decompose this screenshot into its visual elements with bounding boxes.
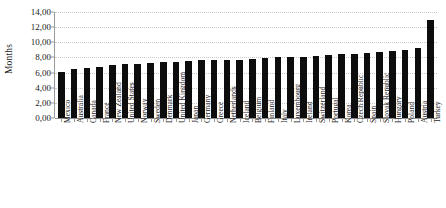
- y-axis-tick-label: 12,00: [31, 23, 51, 32]
- x-axis-category-label: Slovak Republic: [383, 73, 391, 123]
- x-axis-tick: [227, 118, 228, 122]
- x-axis-category-label: Sweden: [154, 99, 162, 123]
- x-axis-category-label: New Zealand: [115, 82, 123, 123]
- y-axis-tick-label: 10,00: [31, 38, 51, 47]
- x-axis-tick: [265, 118, 266, 122]
- x-axis-category-label: Finland: [268, 100, 276, 123]
- x-axis-category-label: Greece: [217, 102, 225, 124]
- x-axis-category-label: Austria: [421, 101, 429, 123]
- x-axis-category-label: Iceland: [243, 101, 251, 123]
- x-axis-tick: [240, 118, 241, 122]
- x-axis-category-label: Spain: [370, 106, 378, 123]
- y-axis-tick: [49, 42, 54, 43]
- x-axis-category-label: Poland: [408, 102, 416, 123]
- x-axis-tick: [405, 118, 406, 122]
- x-axis-tick: [74, 118, 75, 122]
- x-axis-tick: [329, 118, 330, 122]
- y-axis-title-label: Months: [4, 44, 14, 74]
- y-axis-tick: [49, 12, 54, 13]
- x-axis-tick: [125, 118, 126, 122]
- x-axis-category-label: Luxembourg: [294, 84, 302, 123]
- x-axis-tick: [100, 118, 101, 122]
- x-axis-category-label: Czech Republic: [357, 75, 365, 123]
- x-axis-tick: [151, 118, 152, 122]
- x-axis-category-label: Ireland: [306, 101, 314, 123]
- x-axis-category-label: Turkey: [434, 101, 442, 123]
- x-axis-tick: [214, 118, 215, 122]
- x-axis-category-label: United States: [128, 82, 136, 123]
- x-axis-category-label: Hungary: [395, 96, 403, 123]
- x-axis-tick: [380, 118, 381, 122]
- y-axis-tick: [49, 72, 54, 73]
- x-axis-tick: [176, 118, 177, 122]
- x-axis-tick: [189, 118, 190, 122]
- x-axis-category-label: Netherlands: [230, 86, 238, 123]
- x-axis-category-label: Mexico: [64, 100, 72, 123]
- y-axis-tick-label: 14,00: [31, 8, 51, 17]
- y-axis-tick: [49, 27, 54, 28]
- x-axis-category-label: Korea: [345, 104, 353, 123]
- x-axis-tick: [418, 118, 419, 122]
- x-axis-tick: [87, 118, 88, 122]
- y-axis-tick: [49, 87, 54, 88]
- x-axis-category-label: Switzerland: [319, 87, 327, 123]
- y-axis-tick: [49, 118, 54, 119]
- y-axis-tick: [49, 57, 54, 58]
- x-axis-tick: [342, 118, 343, 122]
- x-axis-category-label: Italy: [281, 109, 289, 123]
- x-axis-category-label: Norway: [141, 99, 149, 123]
- x-axis-category-label: Denmark: [166, 95, 174, 123]
- x-axis-category-label: Germany: [204, 95, 212, 123]
- x-axis-category-label: Canada: [90, 100, 98, 123]
- x-axis-tick: [367, 118, 368, 122]
- x-axis-category-label: Belgium: [255, 97, 263, 123]
- x-axis-tick: [138, 118, 139, 122]
- y-axis-title: Months: [0, 0, 18, 118]
- x-axis-category-labels: MexicoAustraliaCanadaFranceNew ZealandUn…: [55, 123, 437, 208]
- x-axis-category-label: Australia: [77, 95, 85, 123]
- y-axis-tick: [49, 102, 54, 103]
- x-axis-tick: [316, 118, 317, 122]
- x-axis-tick: [431, 118, 432, 122]
- x-axis-category-label: Japan: [192, 106, 200, 123]
- x-axis-tick: [278, 118, 279, 122]
- x-axis-category-label: France: [103, 102, 111, 123]
- bar-chart: Months 0,002,004,006,008,0010,0012,0014,…: [0, 0, 446, 208]
- x-axis-category-label: United Kingdom: [179, 72, 187, 123]
- x-axis-category-label: Portugal: [332, 97, 340, 123]
- x-axis-tick: [291, 118, 292, 122]
